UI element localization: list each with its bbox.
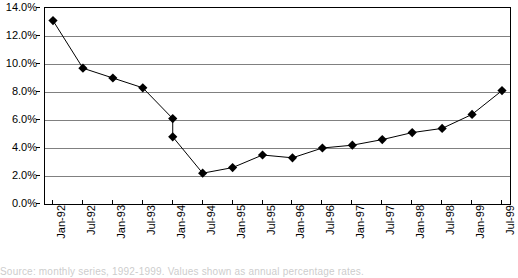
data-point-marker: Jan-96: 3.5% <box>258 150 267 159</box>
x-tick-label: Jan-93 <box>116 205 127 239</box>
x-tick-label: Jan-96 <box>295 205 306 239</box>
x-tick-label: Jan-97 <box>355 205 366 239</box>
y-tick-label: 6.0% <box>12 114 37 125</box>
x-tick-mark <box>262 200 263 205</box>
y-tick-label: 8.0% <box>12 86 37 97</box>
x-tick-mark <box>471 200 472 205</box>
y-tick-mark <box>36 203 40 204</box>
data-point-marker: Jul-92: 9.7% <box>78 64 87 73</box>
y-axis: 0.0%2.0%4.0%6.0%8.0%10.0%12.0%14.0% <box>0 0 40 278</box>
y-tick-label: 0.0% <box>12 198 37 209</box>
data-point-marker: Jul-95: 2.6% <box>228 163 237 172</box>
caption-strip: Source: monthly series, 1992-1999. Value… <box>0 266 518 278</box>
x-tick-label: Jan-99 <box>475 205 486 239</box>
x-tick-mark <box>52 200 53 205</box>
x-tick-label: Jan-92 <box>56 205 67 239</box>
y-tick-label: 10.0% <box>6 58 37 69</box>
data-point-marker: Jul-96: 3.3% <box>288 153 297 162</box>
y-tick-mark <box>36 7 40 8</box>
x-tick-label: Jul-97 <box>385 205 396 235</box>
y-tick-label: 4.0% <box>12 142 37 153</box>
x-tick-label: Jul-93 <box>146 205 157 235</box>
data-point-marker: Jul-98: 5.1% <box>408 128 417 137</box>
x-tick-mark <box>291 200 292 205</box>
x-tick-label: Jul-96 <box>325 205 336 235</box>
plot-area: Jan-92: 13.1%Jul-92: 9.7%Jan-93: 9.0%Jul… <box>44 7 511 205</box>
y-tick-mark <box>36 91 40 92</box>
x-tick-mark <box>411 200 412 205</box>
y-tick-mark <box>36 119 40 120</box>
x-tick-mark <box>351 200 352 205</box>
caption-text: Source: monthly series, 1992-1999. Value… <box>0 266 518 278</box>
y-tick-mark <box>36 63 40 64</box>
y-tick-label: 12.0% <box>6 30 37 41</box>
x-tick-mark <box>501 200 502 205</box>
data-point-marker: Jan-97: 4.0% <box>318 143 327 152</box>
x-tick-label: Jul-98 <box>445 205 456 235</box>
x-tick-mark <box>321 200 322 205</box>
series-line <box>53 21 502 174</box>
data-series: Jan-92: 13.1%Jul-92: 9.7%Jan-93: 9.0%Jul… <box>45 8 510 204</box>
x-tick-mark <box>202 200 203 205</box>
x-tick-label: Jul-94 <box>206 205 217 235</box>
x-tick-label: Jul-95 <box>266 205 277 235</box>
x-tick-label: Jul-99 <box>505 205 516 235</box>
x-tick-label: Jan-95 <box>236 205 247 239</box>
line-chart-figure: 0.0%2.0%4.0%6.0%8.0%10.0%12.0%14.0% Jan-… <box>0 0 518 278</box>
x-tick-label: Jan-98 <box>415 205 426 239</box>
x-tick-label: Jan-94 <box>176 205 187 239</box>
x-tick-label: Jul-92 <box>86 205 97 235</box>
y-tick-mark <box>36 175 40 176</box>
y-tick-label: 14.0% <box>6 2 37 13</box>
data-point-marker: Jan-00: 8.1% <box>497 86 506 95</box>
data-point-marker: Jan-93: 9.0% <box>108 73 117 82</box>
x-tick-mark <box>232 200 233 205</box>
x-tick-mark <box>441 200 442 205</box>
x-tick-mark <box>172 200 173 205</box>
y-tick-label: 2.0% <box>12 170 37 181</box>
x-axis: Jan-92Jul-92Jan-93Jul-93Jan-94Jul-94Jan-… <box>44 205 509 265</box>
data-point-marker: Jul-97: 4.2% <box>348 141 357 150</box>
data-point-marker: Jan-99: 5.4% <box>438 124 447 133</box>
y-tick-mark <box>36 35 40 36</box>
x-tick-mark <box>381 200 382 205</box>
y-tick-mark <box>36 147 40 148</box>
data-point-marker: Jan-92: 13.1% <box>48 16 57 25</box>
x-tick-mark <box>82 200 83 205</box>
data-point-marker: Jul-99: 6.4% <box>467 110 476 119</box>
x-tick-mark <box>142 200 143 205</box>
x-tick-mark <box>112 200 113 205</box>
data-point-marker: Jan-98: 4.6% <box>378 135 387 144</box>
